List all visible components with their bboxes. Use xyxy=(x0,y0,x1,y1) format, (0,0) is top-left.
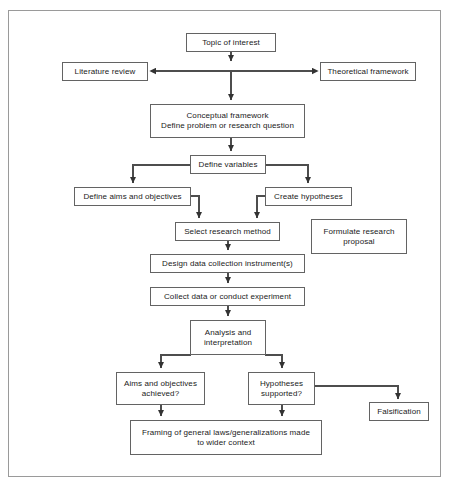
node-collect-data-or-conduct-experiment[interactable]: Collect data or conduct experiment xyxy=(150,287,305,306)
node-conceptual-framework[interactable]: Conceptual frameworkDefine problem or re… xyxy=(150,104,305,138)
node-label: Define variables xyxy=(194,160,262,170)
node-label: Hypothesessupported? xyxy=(252,379,311,399)
node-label: Analysis andinterpretation xyxy=(194,328,262,348)
node-label: Define aims and objectives xyxy=(78,192,187,202)
node-label: Theoretical framework xyxy=(324,67,412,77)
node-label: Create hypotheses xyxy=(269,192,348,202)
node-label: Falsification xyxy=(373,407,425,417)
node-aims-and-objectives-achieved[interactable]: Aims and objectivesachieved? xyxy=(116,372,205,405)
node-label: Literature review xyxy=(66,67,144,77)
node-analysis-and-interpretation[interactable]: Analysis andinterpretation xyxy=(190,320,266,355)
node-define-variables[interactable]: Define variables xyxy=(190,155,266,174)
node-label: Select research method xyxy=(179,227,276,237)
flowchart-canvas: Topic of interest Literature review Theo… xyxy=(0,0,451,493)
node-label: Topic of interest xyxy=(190,38,272,48)
node-framing-of-general-laws[interactable]: Framing of general laws/generalizations … xyxy=(130,420,322,455)
node-theoretical-framework[interactable]: Theoretical framework xyxy=(320,62,416,81)
node-label: Conceptual frameworkDefine problem or re… xyxy=(154,111,301,131)
node-topic-of-interest[interactable]: Topic of interest xyxy=(186,33,276,52)
node-define-aims-and-objectives[interactable]: Define aims and objectives xyxy=(74,187,191,206)
node-label: Aims and objectivesachieved? xyxy=(120,379,201,399)
node-falsification[interactable]: Falsification xyxy=(369,402,429,421)
node-create-hypotheses[interactable]: Create hypotheses xyxy=(265,187,352,206)
node-formulate-research-proposal[interactable]: Formulate researchproposal xyxy=(311,219,407,254)
node-label: Framing of general laws/generalizations … xyxy=(134,428,318,448)
node-label: Formulate researchproposal xyxy=(315,227,403,247)
node-design-data-collection-instrument[interactable]: Design data collection instrument(s) xyxy=(150,254,305,273)
node-label: Collect data or conduct experiment xyxy=(154,292,301,302)
node-hypotheses-supported[interactable]: Hypothesessupported? xyxy=(248,372,315,405)
node-literature-review[interactable]: Literature review xyxy=(62,62,148,81)
node-select-research-method[interactable]: Select research method xyxy=(175,222,280,241)
node-label: Design data collection instrument(s) xyxy=(154,259,301,269)
